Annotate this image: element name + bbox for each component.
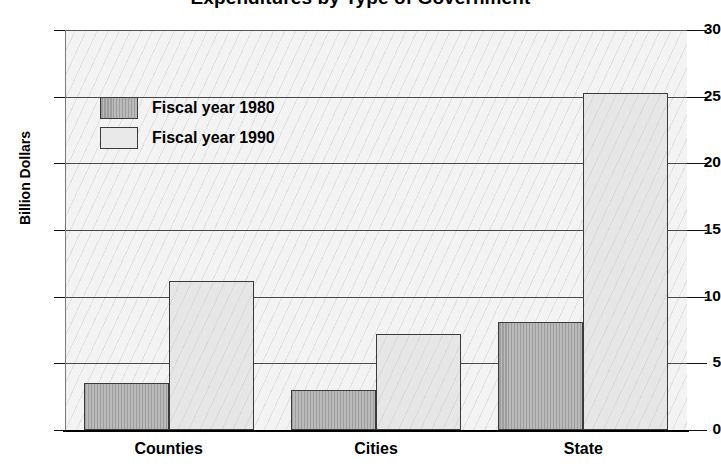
x-axis-label-cities: Cities [276, 440, 476, 458]
legend-swatch-1990 [100, 127, 138, 149]
y-tick-mark [54, 297, 65, 298]
bar-cities-1990 [376, 334, 461, 430]
bar-counties-1990 [169, 281, 254, 430]
y-tick-label: 20 [671, 153, 721, 171]
legend-swatch-1980 [100, 97, 138, 119]
bar-state-1980 [498, 322, 583, 430]
x-axis-line [63, 430, 689, 432]
y-axis-line [65, 30, 66, 431]
bar-state-1990 [583, 93, 668, 430]
y-tick-mark [54, 230, 65, 231]
chart-title: Expenditures by Type of Government [0, 0, 721, 9]
bar-counties-1980 [84, 383, 169, 430]
y-tick-mark [54, 30, 65, 31]
y-axis-title: Billion Dollars [17, 103, 33, 253]
legend-label-1990: Fiscal year 1990 [152, 129, 275, 147]
legend-item-1980: Fiscal year 1980 [100, 95, 275, 121]
y-tick-label: 30 [671, 20, 721, 38]
x-axis-label-counties: Counties [69, 440, 269, 458]
chart-legend: Fiscal year 1980 Fiscal year 1990 [100, 95, 275, 155]
y-tick-label: 5 [671, 353, 721, 371]
y-tick-label: 25 [671, 87, 721, 105]
y-tick-mark [54, 363, 65, 364]
y-tick-mark [54, 97, 65, 98]
y-tick-label: 0 [671, 420, 721, 438]
y-tick-mark [54, 163, 65, 164]
plot-top-border [65, 30, 687, 31]
legend-item-1990: Fiscal year 1990 [100, 125, 275, 151]
y-tick-label: 10 [671, 287, 721, 305]
bar-chart-figure: Expenditures by Type of Government 05101… [0, 0, 721, 475]
legend-label-1980: Fiscal year 1980 [152, 99, 275, 117]
x-axis-label-state: State [483, 440, 683, 458]
y-tick-label: 15 [671, 220, 721, 238]
bar-cities-1980 [291, 390, 376, 430]
